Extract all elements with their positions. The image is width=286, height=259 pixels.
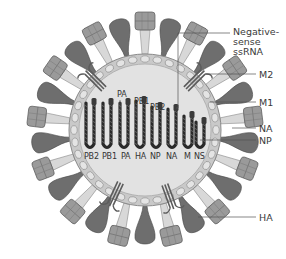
ha-spike — [27, 106, 71, 131]
na-head — [219, 129, 259, 154]
label-line-3: ssRNA — [233, 47, 279, 57]
ha-stalk — [116, 203, 131, 229]
influenza-virus-diagram: Negative- sense ssRNA M2 M1 NA NP HA PA … — [0, 0, 286, 259]
na-spike — [135, 206, 155, 244]
segment-label-ha: HA — [135, 152, 146, 161]
polymerase-complex — [92, 98, 97, 105]
ha-spike — [153, 201, 182, 247]
ha-spike — [135, 12, 155, 54]
label-negative-sense-ssrna: Negative- sense ssRNA — [233, 27, 279, 57]
ha-spike — [107, 201, 136, 247]
label-m2: M2 — [259, 70, 273, 80]
ha-stalk — [214, 152, 240, 170]
ha-stalk — [176, 39, 196, 65]
segment-label-pb2: PB2 — [84, 152, 99, 161]
label-subunit-pa: PA — [117, 90, 127, 99]
ha-spike — [219, 106, 263, 131]
segment-label-pa: PA — [121, 152, 130, 161]
na-spike — [108, 17, 137, 59]
na-head — [31, 129, 71, 154]
label-np: NP — [259, 136, 272, 146]
m1-bead — [213, 126, 219, 135]
polymerase-complex — [109, 98, 114, 105]
label-na: NA — [259, 124, 273, 134]
ha-stalk — [45, 113, 70, 126]
na-head — [108, 17, 137, 59]
na-head — [135, 206, 155, 244]
na-spike — [31, 129, 71, 154]
na-spike — [219, 129, 259, 154]
polymerase-complex — [126, 98, 131, 105]
ha-stalk — [140, 30, 150, 54]
m1-bead — [141, 198, 150, 204]
label-m1: M1 — [259, 98, 273, 108]
ha-stalk — [50, 152, 76, 170]
polymerase-complex — [202, 117, 207, 124]
label-ha: HA — [259, 213, 273, 223]
label-subunit-pb1: PB1 — [134, 97, 149, 106]
ha-stalk — [94, 39, 114, 65]
segment-label-ns: NS — [194, 152, 205, 161]
segment-label-na: NA — [166, 152, 177, 161]
segment-label-m: M — [184, 152, 191, 161]
ha-stalk — [158, 203, 173, 229]
label-subunit-pb2: PB2 — [150, 103, 165, 112]
m1-bead — [141, 56, 150, 62]
segment-label-pb1: PB1 — [102, 152, 117, 161]
polymerase-complex — [190, 111, 195, 118]
segment-label-np: NP — [150, 152, 160, 161]
m1-bead — [71, 126, 77, 135]
ha-stalk — [220, 113, 245, 126]
